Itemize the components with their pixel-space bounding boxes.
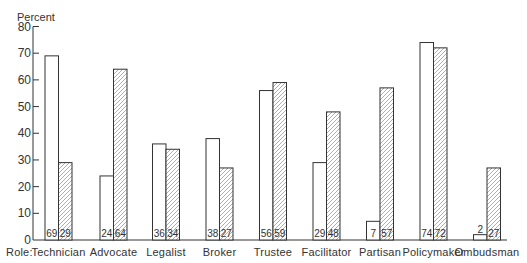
bar-value-label: 27 <box>221 228 233 239</box>
open-bar <box>206 139 220 240</box>
bar-value-label: 56 <box>261 228 273 239</box>
y-tick-label: 50 <box>18 100 32 114</box>
bar-group-facilitator: 2948 <box>313 112 340 240</box>
bar-value-label: 48 <box>328 228 340 239</box>
hatched-bar <box>166 149 180 240</box>
y-tick-label: 10 <box>18 206 32 220</box>
y-tick-label: 30 <box>18 153 32 167</box>
bar-value-label: 69 <box>46 228 58 239</box>
category-label: Ombudsman <box>455 246 520 258</box>
category-label: Facilitator <box>302 246 352 258</box>
y-tick-label: 80 <box>18 20 32 34</box>
bar-value-label: 24 <box>101 228 113 239</box>
open-bar <box>45 56 59 240</box>
bar-value-label: 29 <box>60 228 72 239</box>
y-tick-label: 40 <box>18 126 32 140</box>
category-label: Broker <box>203 246 237 258</box>
bar-value-label: 38 <box>207 228 219 239</box>
bar-group-legalist: 3634 <box>153 144 180 240</box>
bar-group-partisan: 757 <box>367 88 394 240</box>
bar-value-label: 36 <box>154 228 166 239</box>
open-bar <box>420 43 434 240</box>
y-tick-label: 20 <box>18 180 32 194</box>
category-label: Trustee <box>254 246 292 258</box>
category-label: Partisan <box>359 246 401 258</box>
bar-value-label: 27 <box>488 228 500 239</box>
bar-group-ombudsman: 227 <box>474 168 501 240</box>
bar-group-broker: 3827 <box>206 139 233 240</box>
open-bar <box>260 91 274 240</box>
x-axis-title: Role: <box>6 246 33 258</box>
hatched-bar <box>434 48 448 240</box>
bar-value-label: 59 <box>274 228 286 239</box>
bar-value-label: 7 <box>370 228 376 239</box>
y-tick-label: 0 <box>24 233 31 247</box>
hatched-bar <box>273 83 287 240</box>
bar-value-label: 34 <box>167 228 179 239</box>
hatched-bar <box>380 88 394 240</box>
x-axis-labels: TechnicianAdvocateLegalistBrokerTrusteeF… <box>32 246 520 258</box>
open-bar <box>474 235 488 240</box>
category-label: Technician <box>32 246 86 258</box>
bar-value-label: 64 <box>115 228 127 239</box>
bar-value-label: 57 <box>381 228 393 239</box>
category-label: Advocate <box>90 246 137 258</box>
category-label: Legalist <box>146 246 186 258</box>
y-tick-label: 60 <box>18 73 32 87</box>
bar-group-policymaker: 7472 <box>420 43 447 240</box>
bar-group-trustee: 5659 <box>260 83 287 240</box>
bar-value-label: 2 <box>477 224 483 235</box>
bars-group: 6929246436343827565929487577472227 <box>45 43 501 240</box>
hatched-bar <box>327 112 341 240</box>
hatched-bar <box>114 69 128 240</box>
bar-value-label: 74 <box>421 228 433 239</box>
open-bar <box>153 144 167 240</box>
bar-group-advocate: 2464 <box>100 69 127 240</box>
bar-group-technician: 6929 <box>45 56 72 240</box>
bar-chart: Percent 01020304050607080 69292464363438… <box>0 0 527 263</box>
y-tick-label: 70 <box>18 46 32 60</box>
bar-value-label: 72 <box>435 228 447 239</box>
bar-value-label: 29 <box>314 228 326 239</box>
